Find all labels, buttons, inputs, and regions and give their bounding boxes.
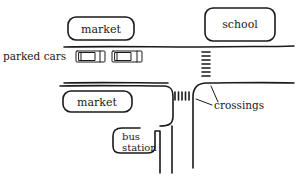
parked-car-2 <box>112 51 142 62</box>
crossing-vertical <box>202 52 210 76</box>
street-map-diagram: market school market bus station parked … <box>0 0 296 181</box>
road-edge-middle-right <box>193 83 294 168</box>
label-crossings: crossings <box>214 99 264 111</box>
leader-line-crossings-side <box>196 99 212 105</box>
parked-car-1 <box>76 51 105 62</box>
label-bus-station-line1: bus <box>122 131 140 142</box>
label-parked-cars: parked cars <box>3 50 66 62</box>
label-school: school <box>222 18 258 31</box>
label-market-bottom: market <box>77 96 117 109</box>
label-bus-station-line2: station <box>122 142 157 153</box>
label-market-top: market <box>81 23 121 36</box>
map-canvas: market school market bus station parked … <box>0 0 296 181</box>
road-edge-top <box>64 46 294 47</box>
crossing-horizontal <box>175 92 189 100</box>
